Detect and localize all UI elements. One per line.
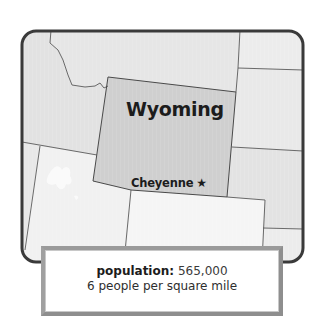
population-density: 6 people per square mile xyxy=(45,279,279,294)
star-icon: ★ xyxy=(196,176,207,190)
population-label: population: xyxy=(96,264,174,278)
capital-name: Cheyenne xyxy=(131,176,193,190)
population-info-box: population: 565,000 6 people per square … xyxy=(41,246,283,316)
population-value: 565,000 xyxy=(178,264,228,278)
population-line: population: 565,000 xyxy=(45,264,279,279)
state-name-label: Wyoming xyxy=(126,98,224,120)
capital-label: Cheyenne★ xyxy=(131,176,207,190)
